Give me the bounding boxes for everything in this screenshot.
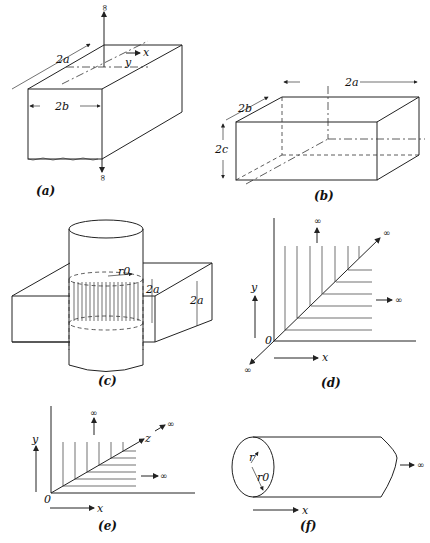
- radius-label: r0: [118, 265, 130, 278]
- top-face: [236, 97, 419, 122]
- panel-d: ∞ ∞ ∞ ∞ y 0 x (d): [244, 216, 416, 390]
- y-label: y: [250, 281, 258, 294]
- figure-canvas: ∞ ∞ x y 2a 2b (a) 2a 2b: [0, 0, 430, 543]
- cylinder-end: [232, 437, 274, 497]
- z-axis: [51, 439, 144, 493]
- dim-2a-label: 2a: [55, 53, 70, 66]
- panel-a: ∞ ∞ x y 2a 2b (a): [12, 4, 182, 198]
- inf-right-label: ∞: [160, 471, 168, 481]
- inf-up-label: ∞: [90, 408, 98, 418]
- dim-2a-line: [12, 44, 90, 89]
- dim-2c-label: 2c: [214, 143, 228, 156]
- inf-down-label: ∞: [244, 365, 252, 375]
- inf-right-label: ∞: [395, 295, 403, 305]
- horizontal-hatch: [63, 451, 136, 486]
- x-label: x: [143, 46, 150, 59]
- y-label: y: [31, 433, 39, 446]
- dim-outer-label: 2a: [189, 294, 204, 307]
- dim-2a-label: 2a: [344, 76, 359, 89]
- caption-c: (c): [98, 374, 117, 388]
- x-label: x: [97, 502, 104, 515]
- y-label: y: [124, 56, 132, 69]
- diag-axis: [274, 238, 380, 341]
- vertical-hatch: [63, 442, 123, 486]
- x-label: x: [322, 351, 329, 364]
- dim-2b-label: 2b: [54, 100, 69, 113]
- caption-f: (f): [300, 519, 317, 533]
- panel-b: 2a 2b 2c (b): [214, 76, 425, 203]
- panel-c: r0 2a 2a (c): [12, 220, 212, 388]
- slab-outline: [12, 263, 212, 342]
- center-axis-d: [246, 139, 328, 184]
- inf-diag-label: ∞: [167, 419, 175, 429]
- caption-a: (a): [36, 184, 55, 198]
- origin-label: 0: [265, 334, 272, 347]
- cylinder-body: [253, 437, 397, 497]
- caption-e: (e): [98, 519, 117, 533]
- inf-top-label: ∞: [100, 4, 110, 12]
- horizontal-hatch: [285, 270, 372, 330]
- midline-y: [62, 41, 148, 84]
- inf-diag-label: ∞: [383, 228, 391, 238]
- cylinder-bottom: [69, 365, 143, 372]
- inf-bottom-label: ∞: [98, 174, 108, 182]
- hatching: [74, 282, 138, 321]
- diag-arrow: [155, 425, 165, 431]
- r0-label: r0: [257, 471, 269, 484]
- panel-e: z ∞ ∞ ∞ y 0 x (e): [31, 406, 195, 533]
- dim-inner-label: 2a: [145, 283, 160, 296]
- panel-f: r r0 ∞ x (f): [232, 437, 425, 533]
- cylinder-top: [69, 220, 143, 238]
- dim-2b-label: 2b: [237, 102, 252, 115]
- vertical-hatch: [285, 246, 359, 330]
- inf-up-label: ∞: [314, 216, 322, 226]
- caption-b: (b): [314, 189, 334, 203]
- right-face: [102, 45, 182, 159]
- hidden-edge-d: [236, 155, 282, 180]
- z-label: z: [144, 432, 151, 445]
- r-label: r: [249, 451, 255, 464]
- x-label: x: [302, 504, 309, 517]
- origin-label: 0: [44, 493, 51, 506]
- inf-right-label: ∞: [417, 460, 425, 470]
- caption-d: (d): [321, 376, 341, 390]
